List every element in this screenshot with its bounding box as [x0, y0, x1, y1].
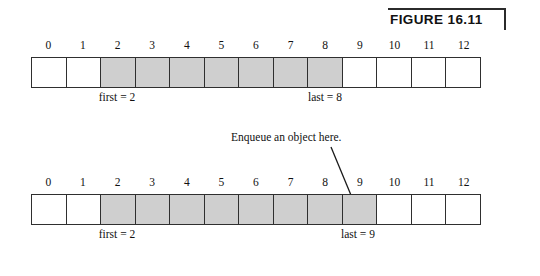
- cells-row-after: [31, 194, 481, 225]
- array-cell-empty: [32, 195, 67, 224]
- array-cell-filled: [308, 195, 343, 224]
- array-cell-filled: [343, 195, 378, 224]
- array-cell-empty: [32, 58, 67, 87]
- array-cell-filled: [274, 195, 309, 224]
- index-label: 7: [273, 175, 308, 190]
- index-label: 5: [204, 175, 239, 190]
- index-label: 9: [343, 175, 378, 190]
- last-pointer-label-before: last = 8: [308, 90, 342, 105]
- last-pointer-label-after: last = 9: [341, 227, 375, 242]
- first-pointer-label-after: first = 2: [99, 227, 136, 242]
- index-label: 1: [66, 175, 101, 190]
- index-label: 11: [412, 175, 447, 190]
- array-cell-filled: [308, 58, 343, 87]
- array-cell-filled: [205, 58, 240, 87]
- array-cell-empty: [377, 195, 412, 224]
- index-label: 11: [412, 38, 447, 53]
- array-cell-filled: [170, 195, 205, 224]
- index-label: 2: [100, 175, 135, 190]
- array-cell-filled: [170, 58, 205, 87]
- index-label: 0: [31, 38, 66, 53]
- array-cell-empty: [446, 58, 480, 87]
- figure-container: FIGURE 16.11 0123456789101112 first = 2 …: [0, 0, 540, 276]
- index-label: 1: [66, 38, 101, 53]
- index-row-before: 0123456789101112: [31, 38, 481, 57]
- index-label: 6: [239, 38, 274, 53]
- array-cell-empty: [446, 195, 480, 224]
- array-cell-empty: [377, 58, 412, 87]
- figure-label-right-tick: [504, 8, 506, 30]
- index-label: 3: [135, 38, 170, 53]
- cells-row-before: [31, 57, 481, 88]
- array-cell-filled: [136, 195, 171, 224]
- figure-label-text: FIGURE 16.11: [390, 12, 483, 27]
- index-label: 0: [31, 175, 66, 190]
- index-label: 12: [446, 38, 481, 53]
- array-cell-filled: [101, 195, 136, 224]
- array-cell-filled: [274, 58, 309, 87]
- index-label: 10: [377, 175, 412, 190]
- array-cell-filled: [239, 58, 274, 87]
- array-cell-empty: [412, 195, 447, 224]
- array-cell-empty: [343, 58, 378, 87]
- index-label: 8: [308, 175, 343, 190]
- index-label: 4: [169, 175, 204, 190]
- array-diagram-before-enqueue: 0123456789101112 first = 2 last = 8: [31, 38, 481, 108]
- index-label: 6: [239, 175, 274, 190]
- array-cell-empty: [412, 58, 447, 87]
- index-label: 2: [100, 38, 135, 53]
- index-label: 3: [135, 175, 170, 190]
- array-cell-filled: [239, 195, 274, 224]
- array-cell-filled: [101, 58, 136, 87]
- array-diagram-after-enqueue: 0123456789101112 first = 2 last = 9: [31, 175, 481, 245]
- array-cell-empty: [67, 58, 102, 87]
- pointer-row-after: first = 2 last = 9: [31, 225, 481, 245]
- index-label: 10: [377, 38, 412, 53]
- index-row-after: 0123456789101112: [31, 175, 481, 194]
- first-pointer-label-before: first = 2: [99, 90, 136, 105]
- figure-label-top-rule: [388, 8, 506, 10]
- index-label: 5: [204, 38, 239, 53]
- array-cell-empty: [67, 195, 102, 224]
- array-cell-filled: [136, 58, 171, 87]
- array-cell-filled: [205, 195, 240, 224]
- figure-label: FIGURE 16.11: [388, 8, 506, 34]
- index-label: 9: [343, 38, 378, 53]
- index-label: 8: [308, 38, 343, 53]
- index-label: 12: [446, 175, 481, 190]
- pointer-row-before: first = 2 last = 8: [31, 88, 481, 108]
- index-label: 4: [169, 38, 204, 53]
- index-label: 7: [273, 38, 308, 53]
